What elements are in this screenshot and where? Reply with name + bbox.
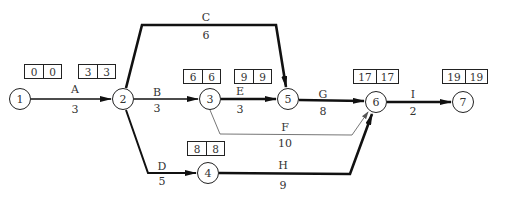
activity-duration-i: 2: [410, 106, 417, 117]
time-box-node-7: 1919: [442, 69, 488, 84]
activity-duration-h: 9: [280, 180, 287, 191]
activity-duration-c: 6: [203, 30, 210, 41]
time-box-node-4: 88: [187, 141, 225, 156]
node-5: 5: [277, 88, 299, 110]
arrow-h: [219, 114, 372, 174]
node-7: 7: [452, 91, 474, 113]
activity-name-a: A: [71, 84, 79, 95]
node-6: 6: [365, 91, 387, 113]
activity-name-f: F: [281, 122, 289, 133]
activity-name-e: E: [236, 86, 244, 97]
activity-duration-a: 3: [72, 104, 79, 115]
activity-duration-d: 5: [159, 176, 166, 187]
activity-name-c: C: [202, 12, 210, 23]
time-box-node-1: 00: [24, 64, 62, 79]
latest-time: 6: [202, 70, 220, 83]
latest-time: 19: [465, 70, 487, 83]
activity-name-h: H: [278, 160, 288, 171]
activity-name-d: D: [158, 161, 167, 172]
earliest-time: 0: [25, 65, 43, 78]
activity-duration-e: 3: [237, 104, 244, 115]
activity-duration-f: 10: [278, 138, 292, 149]
latest-time: 0: [43, 65, 61, 78]
latest-time: 3: [97, 65, 115, 78]
latest-time: 8: [206, 142, 224, 155]
time-box-node-2: 33: [78, 64, 116, 79]
activity-name-b: B: [153, 87, 161, 98]
earliest-time: 3: [79, 65, 97, 78]
time-box-node-6: 1717: [353, 69, 399, 84]
earliest-time: 6: [184, 70, 202, 83]
latest-time: 17: [376, 70, 398, 83]
node-2: 2: [112, 88, 134, 110]
earliest-time: 9: [235, 70, 253, 83]
node-4: 4: [197, 162, 219, 184]
activity-duration-b: 3: [154, 103, 161, 114]
latest-time: 9: [253, 70, 271, 83]
time-box-node-5: 99: [234, 69, 272, 84]
arrow-g: [299, 100, 364, 101]
earliest-time: 17: [354, 70, 376, 83]
earliest-time: 19: [443, 70, 465, 83]
earliest-time: 8: [188, 142, 206, 155]
activity-duration-g: 8: [320, 106, 327, 117]
activity-name-g: G: [319, 89, 328, 100]
node-3: 3: [199, 88, 221, 110]
activity-name-i: I: [411, 89, 415, 100]
time-box-node-3: 66: [183, 69, 221, 84]
node-1: 1: [9, 88, 31, 110]
